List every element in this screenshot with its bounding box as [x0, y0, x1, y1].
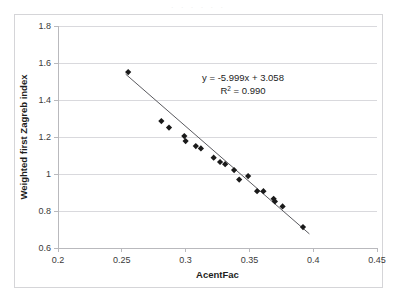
y-axis-ticks: 0.60.811.21.41.61.8 — [38, 21, 58, 253]
x-tick-label: 0.45 — [368, 255, 386, 265]
y-tick-label: 0.8 — [38, 206, 51, 216]
data-point-marker — [166, 124, 172, 130]
data-point-marker — [300, 224, 306, 230]
x-tick-label: 0.2 — [52, 255, 65, 265]
trendline — [126, 74, 310, 234]
y-tick-label: 1.2 — [38, 132, 51, 142]
y-tick-label: 1.6 — [38, 58, 51, 68]
scatter-chart: 0.60.811.21.41.61.80.20.250.30.350.40.45… — [0, 0, 397, 302]
y-tick-label: 0.6 — [38, 243, 51, 253]
y-tick-label: 1.4 — [38, 95, 51, 105]
gridlines — [58, 26, 377, 211]
r-squared-label: R2 = 0.990 — [220, 85, 265, 96]
data-point-marker — [158, 118, 164, 124]
data-points — [125, 69, 306, 230]
y-tick-label: 1 — [46, 169, 51, 179]
y-axis-title: Weighted first Zagreb index — [18, 74, 29, 200]
data-point-marker — [211, 155, 217, 161]
trendline-equation-label: y = -5.999x + 3.058 — [202, 72, 284, 83]
x-axis-ticks: 0.20.250.30.350.40.45 — [52, 248, 386, 265]
x-axis-title: AcentFac — [196, 269, 239, 280]
data-point-marker — [193, 143, 199, 149]
y-tick-label: 1.8 — [38, 21, 51, 31]
data-point-marker — [236, 176, 242, 182]
data-point-marker — [198, 145, 204, 151]
data-point-marker — [254, 188, 260, 194]
data-point-marker — [260, 188, 266, 194]
data-point-marker — [231, 167, 237, 173]
data-point-marker — [183, 138, 189, 144]
x-tick-label: 0.4 — [307, 255, 320, 265]
x-tick-label: 0.35 — [241, 255, 259, 265]
x-tick-label: 0.25 — [113, 255, 131, 265]
x-tick-label: 0.3 — [179, 255, 192, 265]
data-point-marker — [181, 133, 187, 139]
